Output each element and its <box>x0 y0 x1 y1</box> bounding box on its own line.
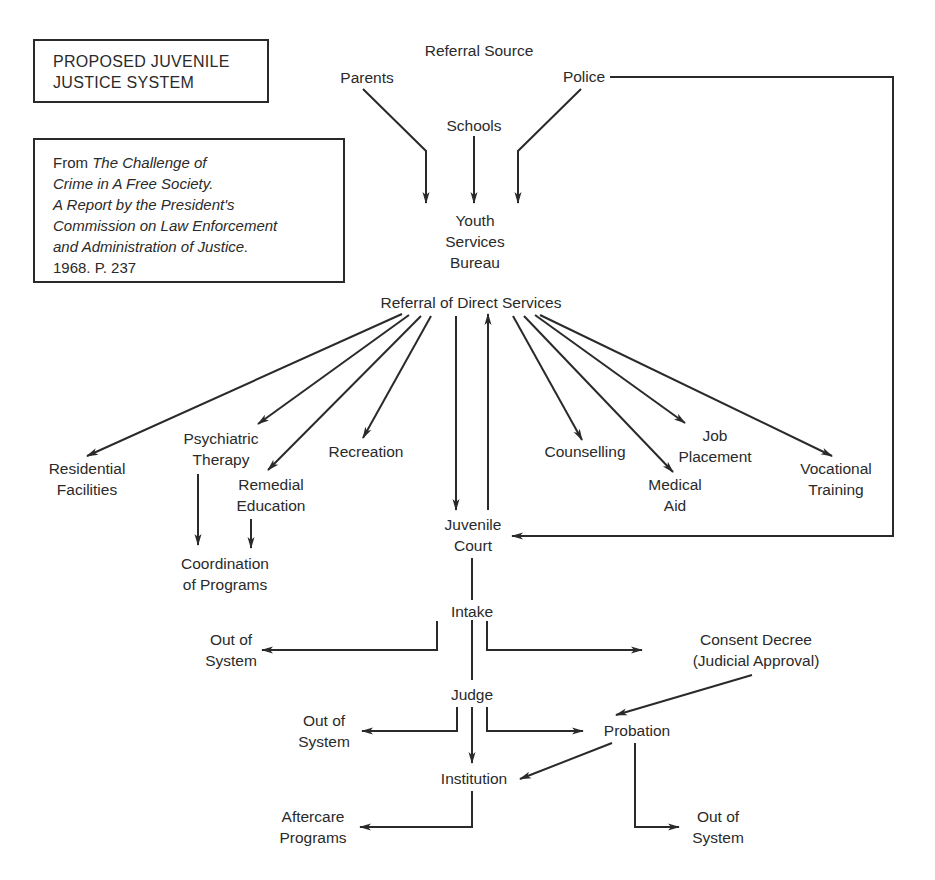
node-remedial-education: Remedial Education <box>237 474 306 516</box>
job-line-1: Job <box>678 425 751 446</box>
arrow-intake-out-of-system <box>262 621 437 650</box>
node-out-of-system-3: Out of System <box>692 806 744 848</box>
arrow-judge-out-of-system <box>362 707 457 731</box>
title-line-2: JUSTICE SYSTEM <box>53 72 267 93</box>
node-recreation: Recreation <box>329 441 404 462</box>
node-medical-aid: Medical Aid <box>648 474 701 516</box>
citation-box: From The Challenge of Crime in A Free So… <box>33 138 345 283</box>
vocational-line-2: Training <box>800 479 872 500</box>
citation-prefix: From <box>53 154 92 171</box>
job-line-2: Placement <box>678 446 751 467</box>
oos1-line-2: System <box>205 650 257 671</box>
arrow-judge-to-probation <box>487 707 583 731</box>
arrow-probation-out-of-system <box>635 743 679 827</box>
oos3-line-1: Out of <box>692 806 744 827</box>
node-institution: Institution <box>441 768 507 789</box>
node-coordination-programs: Coordination of Programs <box>181 553 269 595</box>
node-aftercare-programs: Aftercare Programs <box>279 806 346 848</box>
arrow-institution-to-aftercare <box>360 791 472 827</box>
node-intake: Intake <box>451 601 493 622</box>
arrow-probation-to-institution <box>520 743 612 779</box>
arrow-intake-to-decree <box>487 621 642 650</box>
node-counselling: Counselling <box>545 441 626 462</box>
oos2-line-2: System <box>298 731 350 752</box>
citation-line-3: A Report by the President's <box>53 194 343 215</box>
node-consent-decree: Consent Decree (Judicial Approval) <box>693 629 820 671</box>
court-line-2: Court <box>445 535 502 556</box>
citation-line-1: The Challenge of <box>92 154 206 171</box>
oos1-line-1: Out of <box>205 629 257 650</box>
arrow-police-to-ysb <box>518 89 581 203</box>
node-judge: Judge <box>451 684 493 705</box>
node-vocational-training: Vocational Training <box>800 458 872 500</box>
node-juvenile-court: Juvenile Court <box>445 514 502 556</box>
psychiatric-line-2: Therapy <box>184 449 259 470</box>
arrow-to-counselling <box>513 316 582 440</box>
medical-line-2: Aid <box>648 495 701 516</box>
consent-line-1: Consent Decree <box>693 629 820 650</box>
aftercare-line-1: Aftercare <box>279 806 346 827</box>
node-referral-source: Referral Source <box>425 40 534 61</box>
citation-line-4: Commission on Law Enforcement <box>53 215 343 236</box>
ysb-line-1: Youth <box>445 210 504 231</box>
citation-line-5: and Administration of Justice. <box>53 236 343 257</box>
remedial-line-2: Education <box>237 495 306 516</box>
residential-line-2: Facilities <box>49 479 126 500</box>
remedial-line-1: Remedial <box>237 474 306 495</box>
arrow-to-recreation <box>363 316 431 438</box>
consent-line-2: (Judicial Approval) <box>693 650 820 671</box>
vocational-line-1: Vocational <box>800 458 872 479</box>
node-out-of-system-1: Out of System <box>205 629 257 671</box>
ysb-line-3: Bureau <box>445 252 504 273</box>
aftercare-line-2: Programs <box>279 827 346 848</box>
citation-line-2: Crime in A Free Society. <box>53 173 343 194</box>
node-police: Police <box>563 66 605 87</box>
node-referral-direct-services: Referral of Direct Services <box>381 292 562 313</box>
medical-line-1: Medical <box>648 474 701 495</box>
node-job-placement: Job Placement <box>678 425 751 467</box>
arrow-parents-to-ysb <box>363 89 426 203</box>
node-residential-facilities: Residential Facilities <box>49 458 126 500</box>
ysb-line-2: Services <box>445 231 504 252</box>
title-line-1: PROPOSED JUVENILE <box>53 51 267 72</box>
oos3-line-2: System <box>692 827 744 848</box>
node-parents: Parents <box>340 67 393 88</box>
node-schools: Schools <box>446 115 501 136</box>
residential-line-1: Residential <box>49 458 126 479</box>
coordination-line-2: of Programs <box>181 574 269 595</box>
oos2-line-1: Out of <box>298 710 350 731</box>
node-out-of-system-2: Out of System <box>298 710 350 752</box>
node-youth-services-bureau: Youth Services Bureau <box>445 210 504 273</box>
arrow-consent-to-probation <box>616 675 752 715</box>
node-probation: Probation <box>604 720 670 741</box>
court-line-1: Juvenile <box>445 514 502 535</box>
citation-line-6: 1968. P. 237 <box>53 257 343 278</box>
diagram-title-box: PROPOSED JUVENILE JUSTICE SYSTEM <box>33 39 269 103</box>
psychiatric-line-1: Psychiatric <box>184 428 259 449</box>
node-psychiatric-therapy: Psychiatric Therapy <box>184 428 259 470</box>
coordination-line-1: Coordination <box>181 553 269 574</box>
